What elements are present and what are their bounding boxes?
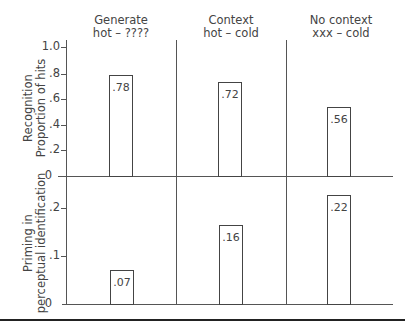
- bar-value-label: .16: [220, 231, 242, 244]
- column-header-line2: xxx – cold: [286, 27, 396, 40]
- bar-value-label: .72: [219, 88, 241, 101]
- tick-label: 1.0: [32, 39, 60, 53]
- tick-label: .1: [32, 248, 60, 262]
- bar-value-label: .07: [111, 276, 133, 289]
- column-header-no-context: No context xxx – cold: [286, 14, 396, 40]
- priming-bar-no-context: .22: [327, 195, 351, 305]
- tick-label: .2: [32, 200, 60, 214]
- tick-label: .4: [32, 117, 60, 131]
- tick: [61, 74, 66, 75]
- bar-value-label: .56: [328, 113, 350, 126]
- tick: [61, 99, 66, 100]
- tick-label: 0: [24, 296, 52, 310]
- recognition-bar-generate: .78: [109, 75, 133, 177]
- priming-bar-context: .16: [219, 225, 243, 305]
- tick: [61, 256, 66, 257]
- column-header-line2: hot – cold: [176, 27, 286, 40]
- tick-label: .2: [32, 142, 60, 156]
- column-divider: [286, 40, 287, 304]
- column-header-generate: Generate hot – ????: [66, 14, 176, 40]
- tick: [61, 150, 66, 151]
- tick: [61, 125, 66, 126]
- bar-value-label: .78: [110, 81, 132, 94]
- tick-label: .8: [32, 66, 60, 80]
- bar-value-label: .22: [328, 201, 350, 214]
- y-axis: [66, 40, 67, 304]
- column-header-context: Context hot – cold: [176, 14, 286, 40]
- bottom-rule: [0, 319, 405, 321]
- tick-label: .6: [32, 91, 60, 105]
- column-header-line2: hot – ????: [66, 27, 176, 40]
- recognition-bar-context: .72: [218, 82, 242, 177]
- tick-label: 0: [24, 168, 52, 182]
- tick: [61, 208, 66, 209]
- recognition-bar-no-context: .56: [327, 107, 351, 177]
- priming-bar-generate: .07: [110, 270, 134, 305]
- column-divider: [176, 40, 177, 304]
- tick: [61, 47, 66, 48]
